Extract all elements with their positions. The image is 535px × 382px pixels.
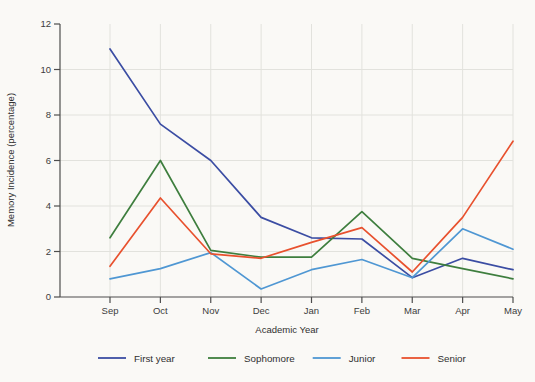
x-axis-label: Academic Year: [255, 324, 318, 335]
x-tick-label: Mar: [404, 305, 420, 316]
axes: [54, 24, 513, 303]
y-tick-label: 4: [46, 200, 51, 211]
y-tick-label: 0: [46, 291, 51, 302]
x-tick-label: May: [504, 305, 522, 316]
x-tick-label: Apr: [455, 305, 470, 316]
x-tick-label: Nov: [202, 305, 219, 316]
legend-item-sophomore: Sophomore: [208, 353, 295, 364]
legend: First yearSophomoreJuniorSenior: [98, 353, 467, 364]
x-tick-label: Dec: [253, 305, 270, 316]
legend-item-first-year: First year: [98, 353, 176, 364]
y-axis-label: Memory Incidence (percentage): [5, 93, 16, 227]
y-tick-label: 2: [46, 246, 51, 257]
x-tick-label: Oct: [153, 305, 168, 316]
line-chart-figure: 024681012SepOctNovDecJanFebMarAprMay Mem…: [0, 0, 535, 382]
legend-label: Sophomore: [244, 353, 295, 364]
legend-item-junior: Junior: [313, 353, 376, 364]
y-tick-label: 6: [46, 155, 51, 166]
y-tick-label: 12: [40, 18, 51, 29]
x-tick-label: Jan: [304, 305, 319, 316]
chart-canvas: 024681012SepOctNovDecJanFebMarAprMay Mem…: [0, 0, 535, 382]
legend-label: Junior: [349, 353, 376, 364]
y-tick-label: 10: [40, 64, 51, 75]
legend-label: First year: [134, 353, 176, 364]
legend-label: Senior: [438, 353, 467, 364]
y-tick-label: 8: [46, 109, 51, 120]
x-tick-label: Feb: [354, 305, 370, 316]
gridlines: [60, 24, 513, 297]
x-tick-label: Sep: [102, 305, 119, 316]
tick-labels: 024681012SepOctNovDecJanFebMarAprMay: [40, 18, 522, 316]
legend-item-senior: Senior: [402, 353, 467, 364]
